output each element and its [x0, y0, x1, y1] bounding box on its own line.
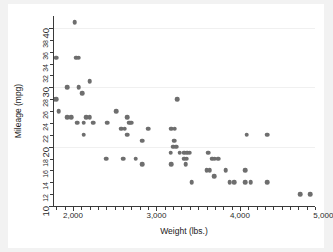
y-axis-tick-label: 40	[41, 28, 52, 39]
y-axis-tick-label: 36	[43, 52, 50, 60]
data-point	[57, 109, 62, 114]
x-axis-tick	[140, 207, 141, 210]
data-point	[75, 121, 80, 126]
gridline	[53, 28, 315, 29]
x-axis-tick-label: 4,000	[230, 211, 250, 220]
x-axis-tick	[115, 207, 116, 210]
data-point	[206, 150, 211, 155]
x-axis-tick-label: 2,000	[63, 211, 83, 220]
data-point	[243, 180, 248, 185]
data-point	[183, 162, 188, 167]
data-point	[172, 138, 177, 143]
x-axis-tick	[282, 207, 283, 210]
x-axis-tick	[198, 207, 199, 210]
y-axis-tick	[50, 159, 53, 160]
data-point	[69, 115, 74, 120]
x-axis-tick	[265, 207, 266, 210]
x-axis-tick	[131, 207, 132, 210]
y-axis-tick	[50, 182, 53, 183]
data-point	[125, 115, 130, 120]
data-point	[175, 97, 180, 102]
data-point	[129, 121, 134, 126]
y-axis-tick-label: 20	[41, 147, 52, 158]
data-point	[212, 174, 217, 179]
data-point	[243, 168, 248, 173]
y-axis-tick-label: 30	[41, 87, 52, 98]
y-axis-tick-label: 14	[43, 182, 50, 190]
data-point	[265, 132, 270, 137]
data-point	[114, 109, 119, 114]
y-axis-tick	[50, 123, 53, 124]
x-axis-tick	[257, 207, 258, 210]
data-point	[65, 85, 70, 90]
x-axis-tick	[148, 207, 149, 210]
data-point	[188, 150, 193, 155]
data-point	[308, 192, 313, 197]
data-point	[232, 180, 237, 185]
data-point	[174, 144, 179, 149]
data-point	[125, 132, 130, 137]
y-axis-title: Mileage (mpg)	[13, 84, 23, 138]
data-point	[82, 121, 87, 126]
x-axis-tick-label: 3,000	[146, 211, 166, 220]
x-axis-tick	[223, 207, 224, 210]
x-axis-tick	[273, 207, 274, 210]
y-axis-tick-label: 12	[43, 194, 50, 202]
y-axis-tick	[50, 135, 53, 136]
gridline	[53, 147, 315, 148]
data-point	[216, 156, 221, 161]
x-axis-tick	[307, 207, 308, 210]
x-axis-tick	[181, 207, 182, 210]
x-axis-tick	[315, 207, 316, 210]
x-axis-tick	[190, 207, 191, 210]
y-axis-tick	[50, 99, 53, 100]
data-point	[298, 192, 303, 197]
data-point	[248, 180, 253, 185]
data-point	[77, 55, 82, 60]
data-point	[105, 121, 110, 126]
x-axis-tick	[173, 207, 174, 210]
y-axis-tick-label: 26	[43, 111, 50, 119]
x-axis-tick	[298, 207, 299, 210]
data-point	[54, 55, 59, 60]
x-axis-tick	[290, 207, 291, 210]
plot-area	[53, 16, 315, 206]
data-point	[169, 162, 174, 167]
data-point	[244, 132, 249, 137]
data-point	[87, 115, 92, 120]
x-axis-line	[53, 206, 315, 207]
data-point	[82, 132, 87, 137]
x-axis-tick	[232, 207, 233, 210]
x-axis-tick	[90, 207, 91, 210]
x-axis-tick	[207, 207, 208, 210]
data-point	[121, 156, 126, 161]
y-axis-tick-label: 18	[43, 159, 50, 167]
y-axis-tick-label: 32	[43, 75, 50, 83]
data-point	[189, 180, 194, 185]
y-axis-tick	[50, 75, 53, 76]
data-point	[133, 156, 138, 161]
y-axis-tick-label: 22	[43, 135, 50, 143]
y-axis-tick	[50, 170, 53, 171]
data-point	[104, 156, 109, 161]
x-axis-tick	[98, 207, 99, 210]
y-axis-tick-label: 38	[43, 40, 50, 48]
data-point	[168, 150, 173, 155]
data-point	[184, 156, 189, 161]
x-axis-tick	[165, 207, 166, 210]
x-axis-tick	[106, 207, 107, 210]
data-point	[265, 180, 270, 185]
y-axis-line	[53, 16, 54, 206]
data-point	[208, 168, 213, 173]
y-axis-tick	[50, 52, 53, 53]
y-axis-tick	[50, 40, 53, 41]
y-axis-tick	[50, 111, 53, 112]
x-axis-tick-label: 5,000	[313, 211, 333, 220]
y-axis-tick	[50, 194, 53, 195]
data-point	[223, 168, 228, 173]
data-point	[91, 121, 96, 126]
data-point	[140, 138, 145, 143]
x-axis-tick	[248, 207, 249, 210]
y-axis-tick-label: 28	[43, 99, 50, 107]
